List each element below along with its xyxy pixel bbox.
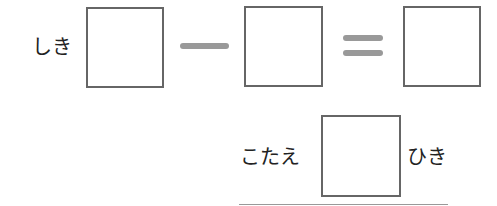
minus-sign-icon	[180, 43, 229, 49]
equation-box-3[interactable]	[403, 6, 481, 87]
kotae-label: こたえ	[240, 145, 300, 169]
equals-sign-top-bar-icon	[343, 35, 383, 41]
equation-box-1[interactable]	[86, 7, 164, 88]
answer-underline	[239, 204, 448, 205]
equals-sign-bottom-bar-icon	[343, 50, 383, 56]
equation-box-2[interactable]	[244, 6, 323, 87]
hiki-unit-label: ひき	[407, 145, 447, 169]
shiki-label: しき	[32, 35, 72, 59]
answer-box[interactable]	[321, 115, 401, 197]
